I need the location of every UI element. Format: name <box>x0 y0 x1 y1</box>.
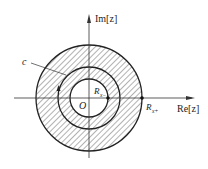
svg-text:R: R <box>145 102 152 112</box>
svg-text:x+: x+ <box>151 108 158 114</box>
inner-radius-point <box>106 96 110 100</box>
contour-label: c <box>22 56 27 67</box>
imag-axis-label: Im[z] <box>95 13 117 24</box>
svg-text:R: R <box>93 86 100 96</box>
z-plane-diagram: Im[z] Re[z] O c R x− R x+ <box>0 0 208 169</box>
region-of-convergence <box>0 0 208 169</box>
origin-label: O <box>79 100 86 111</box>
real-axis-label: Re[z] <box>177 103 199 114</box>
svg-text:x−: x− <box>99 92 106 98</box>
outer-radius-point <box>140 96 144 100</box>
